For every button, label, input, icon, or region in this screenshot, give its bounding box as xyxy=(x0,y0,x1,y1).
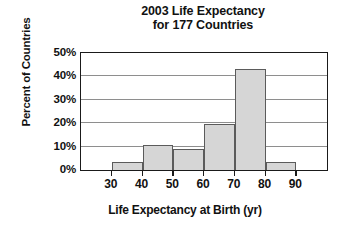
bar-series xyxy=(81,53,327,170)
x-tick-90: 90 xyxy=(280,177,310,191)
y-tick-40%: 40% xyxy=(34,69,76,81)
x-tick-mark-30 xyxy=(111,171,112,176)
x-tick-50: 50 xyxy=(157,177,187,191)
bar-30-40 xyxy=(112,162,143,170)
x-tick-mark-90 xyxy=(295,171,296,176)
chart-figure: 2003 Life Expectancy for 177 Countries P… xyxy=(0,0,342,234)
x-tick-mark-50 xyxy=(172,171,173,176)
chart-title-line-2: for 177 Countries xyxy=(78,18,328,32)
x-tick-mark-40 xyxy=(142,171,143,176)
x-tick-mark-80 xyxy=(265,171,266,176)
y-tick-0%: 0% xyxy=(34,163,76,175)
bar-40-50 xyxy=(143,145,174,170)
chart-title-line-1: 2003 Life Expectancy xyxy=(78,4,328,18)
x-tick-mark-60 xyxy=(203,171,204,176)
plot-area xyxy=(80,52,328,171)
x-axis-title: Life Expectancy at Birth (yr) xyxy=(40,203,330,217)
bar-60-70 xyxy=(204,124,235,170)
x-tick-70: 70 xyxy=(219,177,249,191)
x-tick-80: 80 xyxy=(250,177,280,191)
y-tick-10%: 10% xyxy=(34,140,76,152)
x-tick-mark-70 xyxy=(234,171,235,176)
x-axis-tick-labels: 30405060708090 xyxy=(80,177,328,193)
y-axis-tick-labels: 0%10%20%30%40%50% xyxy=(34,44,76,179)
y-tick-30%: 30% xyxy=(34,93,76,105)
bar-70-80 xyxy=(235,69,266,170)
bar-50-60 xyxy=(173,149,204,170)
y-tick-50%: 50% xyxy=(34,46,76,58)
x-tick-60: 60 xyxy=(188,177,218,191)
y-axis-title: Percent of Countries xyxy=(20,2,32,142)
x-tick-30: 30 xyxy=(96,177,126,191)
x-tick-40: 40 xyxy=(127,177,157,191)
bar-80-90 xyxy=(266,162,297,170)
y-tick-20%: 20% xyxy=(34,116,76,128)
chart-title: 2003 Life Expectancy for 177 Countries xyxy=(78,4,328,32)
